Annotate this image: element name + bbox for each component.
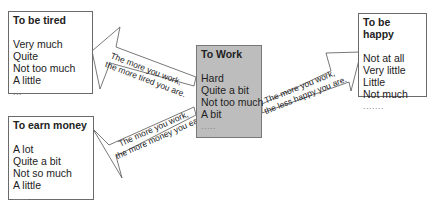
box-to-be-happy: To be happy Not at all Very little Littl… — [358, 13, 427, 97]
box-title: To be happy — [363, 16, 422, 40]
list-item: A bit — [201, 108, 257, 120]
box-to-be-tired: To be tired Very much Quite Not too much… — [8, 11, 93, 94]
list-item: Quite — [13, 50, 88, 62]
list-ellipsis: ..... — [13, 191, 89, 203]
list-item: Little — [363, 76, 422, 88]
list-item: A little — [13, 179, 89, 191]
box-title: To Work — [201, 48, 257, 60]
list-item: Hard — [201, 72, 257, 84]
box-to-earn-money: To earn money A lot Quite a bit Not so m… — [8, 116, 94, 200]
list-item: Not too much — [13, 62, 88, 74]
list-item: Very little — [363, 64, 422, 76]
list-item: A little — [13, 74, 88, 86]
list-item: Very much — [13, 38, 88, 50]
list-ellipsis: ... — [13, 86, 88, 98]
list-ellipsis: ..... — [201, 120, 257, 132]
box-title: To earn money — [13, 119, 89, 131]
box-to-work: To Work Hard Quite a bit Not too much A … — [196, 45, 262, 138]
list-item: Not at all — [363, 52, 422, 64]
list-item: Quite a bit — [201, 84, 257, 96]
box-title: To be tired — [13, 14, 88, 26]
list-item: Not much — [363, 88, 422, 100]
list-item: A lot — [13, 143, 89, 155]
list-ellipsis: ....... — [363, 100, 422, 112]
list-item: Quite a bit — [13, 155, 89, 167]
list-item: Not so much — [13, 167, 89, 179]
list-item: Not too much — [201, 96, 257, 108]
